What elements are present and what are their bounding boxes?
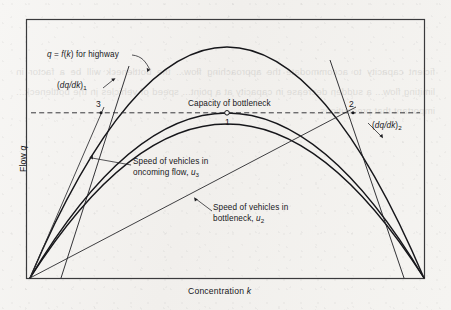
- lower-parabola: [30, 113, 424, 278]
- speed-u2-callout: Speed of vehicles in bottleneck, u2: [213, 203, 288, 226]
- capacity-of-bottleneck-label: Capacity of bottleneck: [188, 99, 271, 110]
- lower-flow-curve: [30, 113, 424, 278]
- slope-1-leader-line: [103, 80, 113, 88]
- slope-2-label: (dq/dk)2: [372, 121, 402, 133]
- highway-flow-curve: [30, 124, 424, 278]
- speed-u2-line-2: bottleneck, u2: [213, 214, 264, 223]
- bottleneck-capacity-flow-curve: [30, 113, 424, 278]
- bottleneck-curve-final: [30, 113, 424, 278]
- highway-curve-label: q = f(k) for highway: [47, 50, 119, 61]
- bottleneck-curve-visible-2: [30, 113, 424, 278]
- point-1-label: 1: [225, 117, 230, 127]
- bottleneck-curve-visible-final: [30, 113, 424, 278]
- speed-u2-leader-arrow: [194, 197, 198, 201]
- bottleneck-flowcurve: [30, 113, 424, 278]
- bottleneck-q-k-curve: [30, 113, 424, 278]
- bottleneck-curve-visible: [30, 113, 424, 278]
- bottleneck-curve-stroke: [30, 113, 424, 278]
- bottleneck-curve-actual: [30, 113, 424, 278]
- point-3-marker: [100, 111, 103, 114]
- slope-1-label: (dq/dk)1: [57, 81, 87, 93]
- bottleneck-flow-concentration-curve: [30, 113, 424, 278]
- bottleneck-capacity-parabola: [30, 113, 424, 278]
- bottleneck-curve-path: [30, 113, 424, 278]
- point-3-label: 3: [96, 99, 101, 109]
- bottleneck-curve-main: [30, 113, 424, 278]
- chord-u2-speed-line: [30, 107, 356, 278]
- highway-label-leader-line: [132, 55, 150, 70]
- bottleneck-curve-render: [30, 113, 424, 278]
- point-2-marker: [352, 111, 355, 114]
- bottleneck-parabola: [30, 113, 424, 278]
- chord-u3-speed-line: [30, 107, 104, 278]
- bottleneck-curve-drawn: [30, 113, 424, 278]
- speed-u3-line-1: Speed of vehicles in: [133, 157, 208, 166]
- capacity-label-text: Capacity of bottleneck: [188, 99, 271, 108]
- point-2-label: 2: [349, 99, 354, 109]
- bottleneck-curve: [30, 113, 424, 278]
- tangent-slope-1-line: [61, 66, 129, 278]
- speed-u3-callout: Speed of vehicles in oncoming flow, u3: [133, 157, 208, 180]
- bottleneck-curve-shape: [30, 113, 424, 278]
- bottleneck-line: [30, 113, 424, 278]
- speed-u2-leader-line: [196, 199, 212, 211]
- point-1-marker: [225, 111, 230, 116]
- bottleneck-q-curve: [30, 113, 424, 278]
- bottleneck-flow-curve-final: [30, 113, 424, 278]
- speed-u2-line-1: Speed of vehicles in: [213, 203, 288, 212]
- plot-canvas: [0, 0, 451, 310]
- y-axis-title: Flow q: [18, 145, 28, 172]
- figure-page: ficient capacity to accommodate the appr…: [0, 0, 451, 310]
- speed-u3-line-2: oncoming flow, u3: [133, 168, 199, 177]
- x-axis-title: Concentration k: [188, 286, 251, 296]
